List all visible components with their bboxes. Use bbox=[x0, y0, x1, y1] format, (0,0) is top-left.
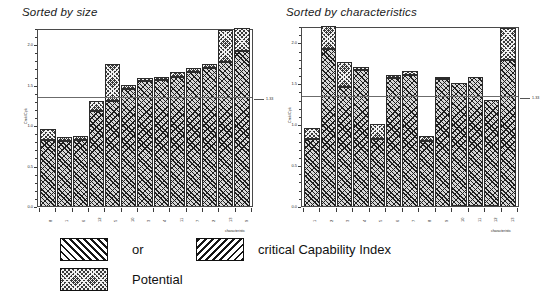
bar-11 bbox=[468, 77, 483, 206]
plot-area-left bbox=[37, 29, 253, 207]
bar-9 bbox=[435, 77, 450, 206]
x-tick-label: 4 bbox=[363, 220, 367, 222]
bar-segment-capability-index bbox=[386, 78, 401, 206]
chart-panel-sorted-by-characteristics: Sorted by characteristics 0.00.51.01.52.… bbox=[268, 0, 553, 232]
bar-slot bbox=[337, 28, 353, 206]
bar-group-right bbox=[302, 28, 518, 206]
x-tick-label: 6 bbox=[82, 220, 86, 222]
chart-title-right: Sorted by characteristics bbox=[286, 6, 417, 18]
bar-slot bbox=[418, 28, 434, 206]
bar-slot bbox=[483, 28, 499, 206]
bar-segment-capability-index bbox=[154, 80, 169, 206]
x-tick-label: 4 bbox=[163, 220, 167, 222]
bar-13 bbox=[500, 28, 515, 206]
x-tick-label: 2 bbox=[330, 220, 334, 222]
x-tick bbox=[235, 208, 236, 212]
bar-segment-capability-index bbox=[57, 141, 72, 206]
x-tick bbox=[169, 208, 170, 212]
y-axis-title-left: Cmk/Cpk bbox=[24, 101, 28, 131]
x-tick-label: 1 bbox=[65, 220, 69, 222]
bar-segment-potential bbox=[105, 64, 120, 100]
bar-segment-capability-index bbox=[170, 77, 185, 206]
x-tick bbox=[418, 208, 419, 212]
bar-13 bbox=[218, 30, 233, 206]
bar-2 bbox=[202, 64, 217, 206]
bar-slot bbox=[369, 28, 385, 206]
legend-item-or: or bbox=[60, 238, 144, 261]
x-tick-label: 10 bbox=[461, 218, 465, 222]
x-tick-label: 8 bbox=[428, 220, 432, 222]
y-tick-label: 2.0 bbox=[27, 43, 33, 47]
x-tick-label: 5 bbox=[379, 220, 383, 222]
y-tick-label: 1.0 bbox=[291, 123, 297, 127]
x-tick-label: 3 bbox=[147, 220, 151, 222]
bar-slot bbox=[500, 28, 516, 206]
x-tick-label: 9 bbox=[245, 220, 249, 222]
bar-10 bbox=[121, 85, 136, 206]
x-tick bbox=[88, 208, 89, 212]
bar-group-left bbox=[38, 30, 252, 206]
y-tick-label: 0.0 bbox=[27, 205, 33, 209]
x-tick bbox=[484, 208, 485, 212]
x-tick-label: 12 bbox=[98, 218, 102, 222]
bar-2 bbox=[321, 26, 336, 206]
bar-segment-capability-index bbox=[402, 75, 417, 206]
reference-line-label-right: 1.33 bbox=[532, 96, 539, 100]
bar-12 bbox=[484, 100, 499, 206]
bar-segment-capability-index bbox=[202, 68, 217, 206]
x-tick bbox=[251, 208, 252, 212]
chart-legend: or critical Capability Index Potential bbox=[0, 232, 553, 300]
x-tick bbox=[303, 208, 304, 212]
bar-slot bbox=[202, 30, 218, 206]
y-tick-label: 1.5 bbox=[27, 84, 33, 88]
x-axis-left: 81612510341172139 bbox=[37, 208, 253, 230]
figure-capability-index: Sorted by size 0.00.51.01.52.0 Cmk/Cpk 1… bbox=[0, 0, 553, 300]
bar-3 bbox=[337, 62, 352, 206]
x-tick-label: 10 bbox=[131, 218, 135, 222]
x-tick bbox=[121, 208, 122, 212]
bar-segment-capability-index bbox=[186, 72, 201, 206]
bar-segment-potential bbox=[40, 129, 55, 140]
bar-segment-capability-index bbox=[304, 139, 319, 206]
x-axis-right: 12345678910111213 bbox=[301, 208, 519, 230]
bar-segment-capability-index bbox=[321, 49, 336, 206]
bar-slot bbox=[234, 30, 250, 206]
bar-slot bbox=[185, 30, 201, 206]
x-tick bbox=[336, 208, 337, 212]
bar-segment-capability-index bbox=[419, 141, 434, 206]
reference-line-tick-left bbox=[254, 99, 264, 100]
x-tick bbox=[202, 208, 203, 212]
x-tick-label: 2 bbox=[212, 220, 216, 222]
bar-segment-capability-index bbox=[234, 51, 249, 206]
x-tick-label: 13 bbox=[229, 218, 233, 222]
x-tick-label: 9 bbox=[445, 220, 449, 222]
bar-segment-capability-index bbox=[89, 111, 104, 206]
bar-segment-potential bbox=[234, 28, 249, 51]
bar-slot bbox=[40, 30, 56, 206]
x-tick-label: 12 bbox=[494, 218, 498, 222]
bar-9 bbox=[234, 28, 249, 206]
bar-slot bbox=[72, 30, 88, 206]
y-tick-label: 0.0 bbox=[291, 205, 297, 209]
bar-slot bbox=[105, 30, 121, 206]
x-tick bbox=[137, 208, 138, 212]
bar-4 bbox=[154, 77, 169, 206]
bar-segment-potential bbox=[337, 62, 352, 87]
bar-segment-potential bbox=[218, 30, 233, 62]
bar-segment-capability-index bbox=[468, 77, 483, 206]
bar-slot bbox=[218, 30, 234, 206]
x-tick-label: 7 bbox=[412, 220, 416, 222]
bar-slot bbox=[121, 30, 137, 206]
legend-swatch-or-icon bbox=[60, 238, 108, 261]
legend-label-potential: Potential bbox=[132, 272, 183, 287]
bar-segment-capability-index bbox=[73, 140, 88, 206]
bar-7 bbox=[402, 71, 417, 206]
x-tick-label: 8 bbox=[49, 220, 53, 222]
x-tick-label: 3 bbox=[346, 220, 350, 222]
x-tick-label: 5 bbox=[114, 220, 118, 222]
legend-item-potential: Potential bbox=[60, 268, 183, 291]
legend-swatch-potential-icon bbox=[60, 268, 108, 291]
x-tick bbox=[501, 208, 502, 212]
x-tick bbox=[186, 208, 187, 212]
bar-slot bbox=[435, 28, 451, 206]
